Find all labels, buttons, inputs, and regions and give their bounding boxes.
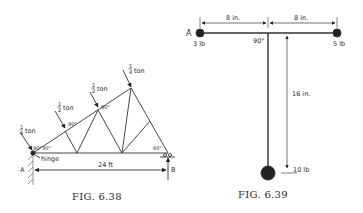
svg-text:3 lb: 3 lb — [193, 40, 205, 48]
svg-text:60°: 60° — [153, 145, 162, 151]
svg-text:hinge: hinge — [41, 155, 59, 163]
mass-bottom — [261, 166, 275, 180]
svg-text:2: 2 — [92, 88, 95, 94]
svg-text:30°: 30° — [42, 145, 51, 151]
figure-6-38-labels: 1 4 ton 1 2 ton 1 2 ton 1 4 ton 90° 90° … — [19, 63, 175, 202]
load-arrow-2 — [55, 111, 65, 128]
svg-text:5 lb: 5 lb — [333, 40, 345, 48]
svg-text:90°: 90° — [253, 37, 265, 45]
top-chord-right — [131, 88, 168, 153]
svg-text:90°: 90° — [101, 104, 110, 110]
figure-6-39 — [196, 17, 341, 180]
svg-text:4: 4 — [20, 130, 23, 136]
figure-caption: FIG. 6.39 — [238, 189, 288, 200]
svg-text:ton: ton — [97, 85, 108, 93]
load-arrow-3 — [90, 92, 98, 107]
figures-canvas: 1 4 ton 1 2 ton 1 2 ton 1 4 ton 90° 90° … — [0, 0, 363, 213]
svg-text:16 in.: 16 in. — [292, 90, 310, 98]
svg-text:24 ft: 24 ft — [98, 161, 114, 169]
svg-text:8 in.: 8 in. — [226, 14, 240, 22]
svg-text:10 lb: 10 lb — [293, 166, 309, 174]
svg-text:ton: ton — [25, 127, 36, 135]
mass-left — [196, 29, 204, 37]
svg-text:ton: ton — [63, 104, 74, 112]
svg-text:4: 4 — [129, 69, 132, 75]
svg-text:8 in.: 8 in. — [294, 14, 308, 22]
svg-text:90°: 90° — [33, 145, 42, 151]
mass-right — [333, 29, 341, 37]
svg-text:A: A — [20, 166, 25, 174]
svg-text:90°: 90° — [68, 121, 77, 127]
figure-caption: FIG. 6.38 — [72, 191, 122, 202]
svg-text:B: B — [171, 166, 175, 174]
svg-text:2: 2 — [58, 107, 61, 113]
hinge-pin — [31, 151, 35, 155]
wall-hatch — [28, 153, 33, 185]
svg-text:ton: ton — [134, 67, 145, 75]
svg-text:A: A — [186, 29, 192, 38]
